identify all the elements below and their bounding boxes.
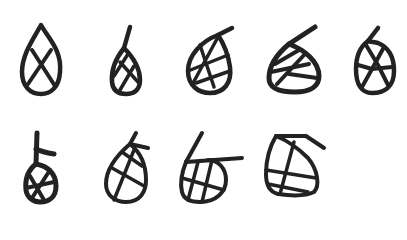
- glyph-5-icon: [352, 25, 402, 97]
- glyph-3-icon: [182, 25, 242, 97]
- glyph-4-icon: [265, 24, 325, 96]
- glyph-2-icon: [108, 24, 148, 99]
- glyph-1-icon: [18, 22, 68, 97]
- glyph-9-icon: [262, 130, 328, 205]
- glyph-7-icon: [100, 130, 160, 205]
- glyph-6-icon: [22, 130, 62, 205]
- glyph-8-icon: [178, 130, 244, 205]
